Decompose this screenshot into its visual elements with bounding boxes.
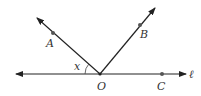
point-A — [51, 31, 55, 35]
label-C: C — [157, 80, 166, 93]
label-line-l: ℓ — [189, 68, 194, 81]
label-O: O — [97, 80, 106, 93]
point-O — [98, 72, 101, 75]
label-angle-x: x — [74, 60, 81, 73]
point-B — [138, 23, 142, 27]
angle-arc-x — [85, 64, 89, 74]
ray-OB — [100, 8, 155, 74]
point-C — [160, 72, 164, 76]
label-B: B — [139, 28, 148, 41]
geometry-diagram: A B O C x ℓ — [0, 0, 201, 96]
label-A: A — [45, 37, 54, 50]
